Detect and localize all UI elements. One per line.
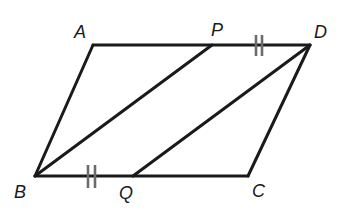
parallelogram-diagram: A P D B Q C bbox=[0, 0, 351, 215]
vertex-label-B: B bbox=[14, 182, 26, 202]
segment-QD bbox=[133, 45, 310, 176]
side-DC bbox=[248, 45, 310, 176]
vertex-label-Q: Q bbox=[119, 183, 133, 203]
vertex-label-C: C bbox=[252, 181, 266, 201]
vertex-label-A: A bbox=[73, 22, 86, 42]
vertex-label-D: D bbox=[314, 22, 327, 42]
vertex-label-P: P bbox=[211, 20, 223, 40]
segment-BP bbox=[35, 45, 212, 176]
